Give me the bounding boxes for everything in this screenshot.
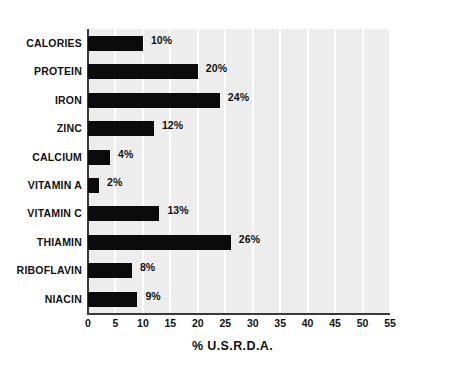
bar-row: 24% [0, 86, 465, 114]
x-axis-line [87, 313, 390, 315]
bar [88, 93, 220, 108]
x-tick-label: 55 [384, 317, 396, 329]
x-tick-label: 25 [219, 317, 231, 329]
bar [88, 150, 110, 165]
x-tick-label: 15 [165, 317, 177, 329]
bar-row: 8% [0, 256, 465, 284]
x-tick-label: 40 [302, 317, 314, 329]
bar-row: 12% [0, 114, 465, 142]
bar-value-label: 2% [107, 176, 122, 188]
bar-row: 9% [0, 285, 465, 313]
x-tick-label: 5 [113, 317, 119, 329]
bar [88, 36, 143, 51]
bar-value-label: 8% [140, 261, 155, 273]
bar-row: 2% [0, 171, 465, 199]
bar-value-label: 20% [206, 62, 227, 74]
bar [88, 235, 231, 250]
bar [88, 292, 137, 307]
x-tick-label: 30 [247, 317, 259, 329]
bar [88, 263, 132, 278]
x-axis-tick-labels: 0510152025303540455055 [0, 317, 465, 333]
bar-value-label: 10% [151, 34, 172, 46]
bar-value-label: 4% [118, 148, 133, 160]
x-tick-label: 10 [137, 317, 149, 329]
x-tick-label: 50 [357, 317, 369, 329]
bar-value-label: 24% [228, 91, 249, 103]
bar-value-label: 9% [145, 290, 160, 302]
x-tick-label: 0 [85, 317, 91, 329]
bar-value-label: 13% [167, 204, 188, 216]
bar [88, 64, 198, 79]
bar [88, 121, 154, 136]
bar-row: 20% [0, 57, 465, 85]
x-tick-label: 20 [192, 317, 204, 329]
bar-row: 10% [0, 29, 465, 57]
bar [88, 178, 99, 193]
bar-row: 26% [0, 228, 465, 256]
bar-value-label: 12% [162, 119, 183, 131]
bar-row: 4% [0, 143, 465, 171]
bar-row: 13% [0, 199, 465, 227]
bar-value-label: 26% [239, 233, 260, 245]
x-axis-title: % U.S.R.D.A. [0, 339, 465, 353]
bar-chart: CALORIESPROTEINIRONZINCCALCIUMVITAMIN AV… [0, 0, 465, 367]
bar [88, 206, 159, 221]
x-tick-label: 35 [274, 317, 286, 329]
x-tick-label: 45 [329, 317, 341, 329]
